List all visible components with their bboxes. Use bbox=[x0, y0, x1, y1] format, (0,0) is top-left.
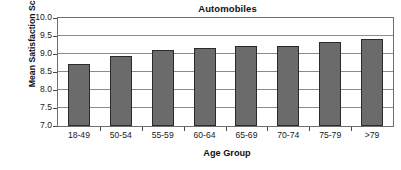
y-tick-label: 7.0 bbox=[24, 121, 52, 130]
bar[interactable] bbox=[235, 46, 257, 126]
y-tick-mark bbox=[53, 18, 57, 19]
bar-slot bbox=[142, 18, 184, 126]
bar-slot bbox=[184, 18, 226, 126]
y-tick-label: 8.5 bbox=[24, 67, 52, 76]
y-tick-mark bbox=[53, 90, 57, 91]
bar[interactable] bbox=[110, 56, 132, 126]
y-tick-mark bbox=[53, 108, 57, 109]
y-tick-label: 7.5 bbox=[24, 103, 52, 112]
x-tick-label: 55-59 bbox=[142, 130, 184, 140]
bar[interactable] bbox=[277, 46, 299, 126]
x-tick-label: 65-69 bbox=[226, 130, 268, 140]
y-tick-mark bbox=[53, 126, 57, 127]
y-tick-label: 10.0 bbox=[24, 13, 52, 22]
x-tick-label: 70-74 bbox=[267, 130, 309, 140]
x-tick-mark bbox=[226, 127, 227, 131]
bar-slot bbox=[100, 18, 142, 126]
bar-slot bbox=[58, 18, 100, 126]
bar-slot bbox=[226, 18, 268, 126]
bars-group bbox=[58, 18, 393, 126]
bar[interactable] bbox=[152, 50, 174, 126]
x-axis-title: Age Group bbox=[57, 148, 397, 158]
bar[interactable] bbox=[68, 64, 90, 126]
x-tick-label: 50-54 bbox=[100, 130, 142, 140]
x-tick-label: 18-49 bbox=[58, 130, 100, 140]
x-tick-mark bbox=[267, 127, 268, 131]
x-tick-mark bbox=[309, 127, 310, 131]
x-tick-label: >79 bbox=[351, 130, 393, 140]
y-tick-mark bbox=[53, 54, 57, 55]
bar[interactable] bbox=[319, 42, 341, 126]
bar[interactable] bbox=[361, 39, 383, 126]
x-tick-mark bbox=[351, 127, 352, 131]
bar-slot bbox=[309, 18, 351, 126]
x-tick-label: 60-64 bbox=[184, 130, 226, 140]
y-tick-label: 8.0 bbox=[24, 85, 52, 94]
y-tick-mark bbox=[53, 72, 57, 73]
y-tick-label: 9.5 bbox=[24, 31, 52, 40]
bar-slot bbox=[351, 18, 393, 126]
bar-slot bbox=[267, 18, 309, 126]
bar-chart-figure: Automobiles Mean Satisfaction Score 10.0… bbox=[0, 0, 401, 170]
x-tick-label: 75-79 bbox=[309, 130, 351, 140]
x-tick-mark bbox=[142, 127, 143, 131]
y-tick-label: 9.0 bbox=[24, 49, 52, 58]
bar[interactable] bbox=[194, 48, 216, 126]
x-tick-mark bbox=[100, 127, 101, 131]
chart-title: Automobiles bbox=[60, 3, 395, 14]
y-tick-mark bbox=[53, 36, 57, 37]
x-tick-mark bbox=[184, 127, 185, 131]
